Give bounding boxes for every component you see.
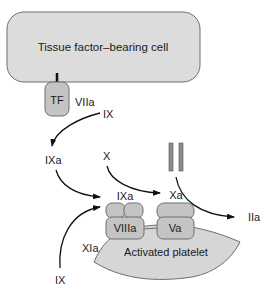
coagulation-diagram: Tissue factor–bearing cell TF VIIa IX IX… [0,0,272,290]
tissue-factor: TF [45,82,69,116]
platelet-label: Activated platelet [124,246,208,258]
prothrombin-bars [169,143,183,171]
arrow-x-to-xa [107,166,160,193]
xia-label: XIa [82,242,99,254]
viia-label: VIIa [75,96,95,108]
arrow-ixa-to-complex [56,170,100,197]
arrow-ix-to-complex [60,207,100,268]
ix-top-label: IX [103,108,114,120]
arrow-ix-to-ixa [52,113,100,146]
ixa-complex-label: IXa [117,190,134,202]
prothrombinase-complex: Va [157,203,194,239]
x-label: X [103,150,111,162]
iia-label: IIa [248,211,261,223]
viiia-label: VIIIa [114,222,138,234]
ixa-free-label: IXa [45,154,62,166]
tenase-complex: VIIIa [106,203,144,239]
va-label: Va [169,222,183,234]
tissue-factor-bearing-cell: Tissue factor–bearing cell [7,12,200,82]
tf-label: TF [50,94,64,106]
ix-bottom-label: IX [55,274,66,286]
tf-cell-label: Tissue factor–bearing cell [38,41,169,53]
xa-label: Xa [169,189,183,201]
